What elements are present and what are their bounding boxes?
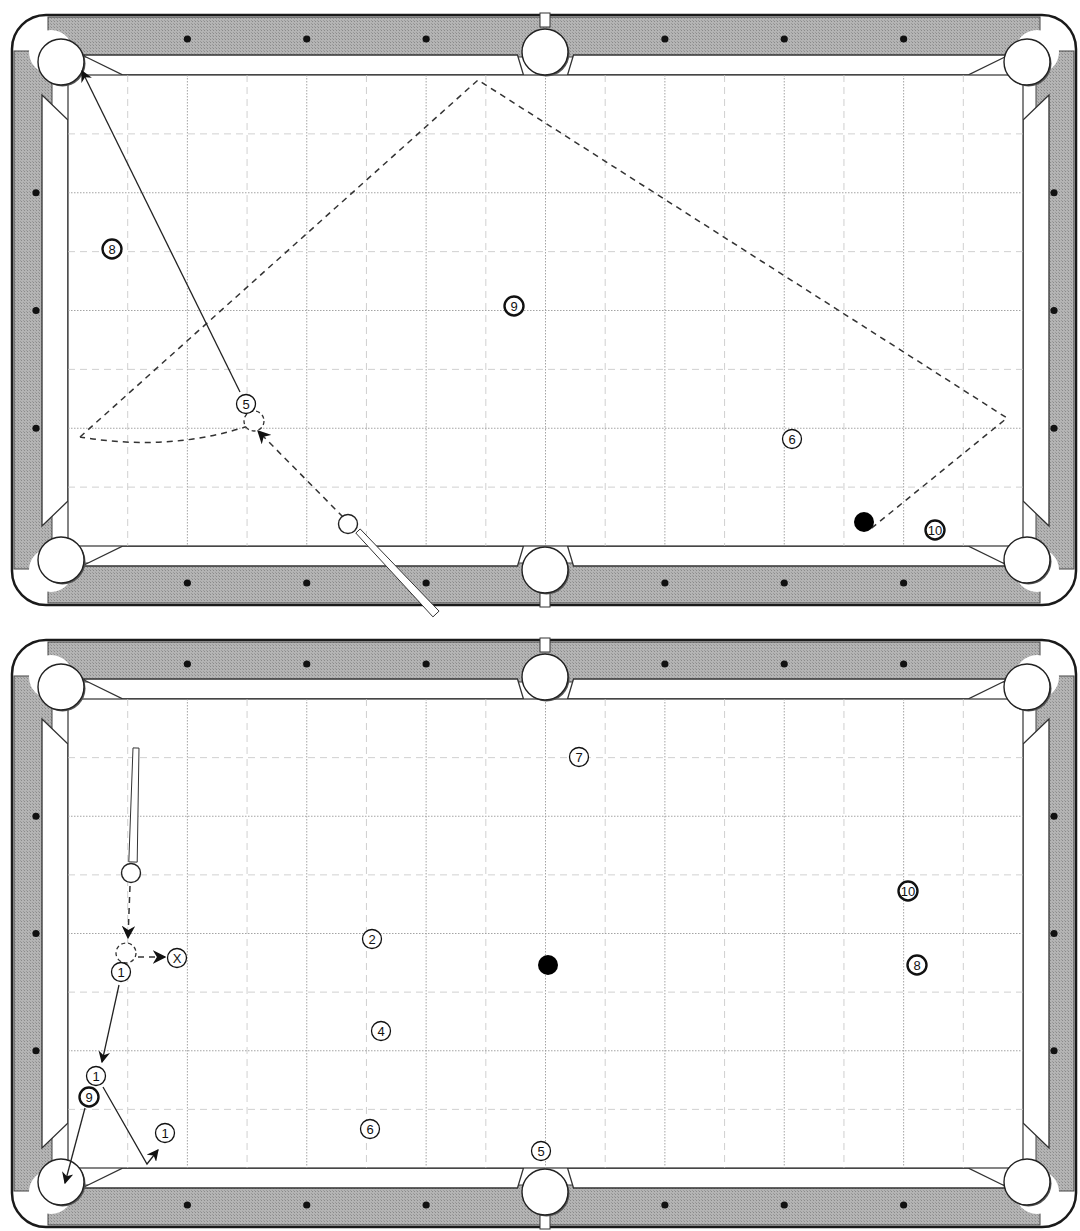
ball-6: 6 xyxy=(783,430,802,449)
diamond-marker xyxy=(32,1047,39,1054)
diamond-marker xyxy=(32,307,39,314)
diamond-marker xyxy=(1050,307,1057,314)
ball-9: 9 xyxy=(505,297,524,316)
pocket-icon xyxy=(38,1159,84,1205)
diamond-marker xyxy=(900,579,907,586)
bottom-right-cushion xyxy=(568,1168,1010,1188)
pocket-icon xyxy=(38,39,84,85)
diamond-marker xyxy=(303,1201,310,1208)
diamond-marker xyxy=(900,660,907,667)
diamond-marker xyxy=(1050,1047,1057,1054)
ball-1: 1 xyxy=(87,1067,106,1086)
ball-number-label: 5 xyxy=(537,1144,544,1159)
diamond-marker xyxy=(423,579,430,586)
right-cushion xyxy=(1023,719,1049,1148)
pocket-icon xyxy=(38,537,84,583)
diamond-marker xyxy=(900,1201,907,1208)
ball-number-label: 1 xyxy=(161,1126,168,1141)
pocket-notch xyxy=(540,13,550,27)
diamond-marker xyxy=(1050,425,1057,432)
ball-number-label: 4 xyxy=(377,1024,384,1039)
ball-number-label: 6 xyxy=(788,432,795,447)
ball-number-label: 7 xyxy=(575,750,582,765)
right-cushion xyxy=(1023,95,1049,526)
diamond-marker xyxy=(900,35,907,42)
ball-number-label: 1 xyxy=(117,965,124,980)
diamond-marker xyxy=(1050,930,1057,937)
pocket-icon xyxy=(38,664,84,710)
ball-number-label: 8 xyxy=(108,242,115,257)
pool-diagram-stage: 895610 710284651191X Top table diagram: … xyxy=(0,0,1080,1231)
top-right-cushion xyxy=(568,55,1010,75)
pocket-notch xyxy=(540,638,550,652)
ball-number-label: 9 xyxy=(85,1090,92,1105)
diamond-marker xyxy=(303,660,310,667)
pocket-icon xyxy=(522,1169,568,1215)
diamond-marker xyxy=(32,425,39,432)
diamond-marker xyxy=(661,35,668,42)
ball-6: 6 xyxy=(361,1120,380,1139)
diamond-marker xyxy=(423,660,430,667)
ball-number-label: 2 xyxy=(368,932,375,947)
diamond-marker xyxy=(184,1201,191,1208)
ghost-ball-icon xyxy=(116,943,136,963)
ball-2: 2 xyxy=(363,930,382,949)
ball-number-label: X xyxy=(173,951,182,966)
bottom-right-cushion xyxy=(568,546,1010,566)
ball-7: 7 xyxy=(570,748,589,767)
pocket-icon xyxy=(1004,39,1050,85)
ball-9: 9 xyxy=(80,1088,99,1107)
pocket-icon xyxy=(1004,1159,1050,1205)
ball-10: 10 xyxy=(926,521,945,540)
diamond-marker xyxy=(303,35,310,42)
diamond-marker xyxy=(1050,813,1057,820)
diamond-marker xyxy=(184,35,191,42)
pocket-icon xyxy=(522,547,568,593)
ball-number-label: 8 xyxy=(913,958,920,973)
diamond-marker xyxy=(423,35,430,42)
bottom-left-cushion xyxy=(82,546,524,566)
pocket-notch xyxy=(540,1215,550,1229)
diamond-marker xyxy=(781,1201,788,1208)
cue-ball-icon xyxy=(339,515,358,534)
diamond-marker xyxy=(781,660,788,667)
ball-number-label: 9 xyxy=(510,299,517,314)
diamond-marker xyxy=(781,35,788,42)
diamond-marker xyxy=(423,1201,430,1208)
left-cushion xyxy=(42,95,68,526)
ball-8: 8 xyxy=(103,240,122,259)
ball-5: 5 xyxy=(237,395,256,414)
bottom-left-cushion xyxy=(82,1168,524,1188)
diamond-marker xyxy=(661,1201,668,1208)
cue-ball-icon xyxy=(122,864,141,883)
diamond-marker xyxy=(661,579,668,586)
pocket-icon xyxy=(1004,537,1050,583)
diamond-marker xyxy=(781,579,788,586)
ball-10: 10 xyxy=(899,882,918,901)
pocket-notch xyxy=(540,593,550,607)
diamond-marker xyxy=(32,189,39,196)
diamond-marker xyxy=(303,579,310,586)
top-right-cushion xyxy=(568,679,1010,699)
top-left-cushion xyxy=(82,55,524,75)
ball-8: 8 xyxy=(908,956,927,975)
black-ball-icon xyxy=(854,512,874,532)
top-pool-table: 895610 xyxy=(12,13,1076,617)
ball-number-label: 6 xyxy=(366,1122,373,1137)
ball-number-label: 5 xyxy=(242,397,249,412)
ball-X: X xyxy=(168,949,187,968)
bottom-pool-table: 710284651191X xyxy=(12,638,1076,1229)
diamond-marker xyxy=(32,930,39,937)
pocket-icon xyxy=(1004,664,1050,710)
pocket-icon xyxy=(522,654,568,700)
ball-4: 4 xyxy=(372,1022,391,1041)
diamond-marker xyxy=(1050,189,1057,196)
pocket-icon xyxy=(522,29,568,75)
diamond-marker xyxy=(32,813,39,820)
top-left-cushion xyxy=(82,679,524,699)
left-cushion xyxy=(42,719,68,1148)
ball-1: 1 xyxy=(112,963,131,982)
black-ball-icon xyxy=(538,955,558,975)
ball-number-label: 10 xyxy=(901,884,915,899)
ball-5: 5 xyxy=(532,1142,551,1161)
